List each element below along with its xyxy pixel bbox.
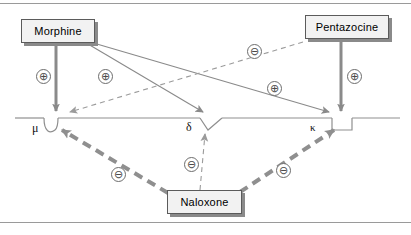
sign-morphine-mu-plus: ⊕: [36, 69, 51, 84]
drug-label-pentazocine: Pentazocine: [316, 22, 379, 33]
arrow-naloxone-to-delta: [200, 134, 205, 190]
drug-box-morphine[interactable]: Morphine: [21, 19, 95, 43]
drug-box-naloxone[interactable]: Naloxone: [167, 190, 242, 214]
receptor-label-mu: μ: [32, 121, 38, 136]
sign-pentazocine-mu-minus: ⊖: [247, 44, 262, 59]
sign-naloxone-kappa-minus: ⊖: [276, 163, 291, 178]
sign-pentazocine-kappa-plus: ⊕: [347, 69, 362, 84]
sign-naloxone-mu-minus: ⊖: [111, 167, 126, 182]
drug-label-morphine: Morphine: [34, 26, 81, 37]
drug-box-pentazocine[interactable]: Pentazocine: [305, 15, 389, 39]
arrow-naloxone-to-mu: [62, 130, 168, 193]
arrow-morphine-to-kappa: [90, 42, 329, 112]
delta-receptor-notch: [200, 118, 222, 130]
sign-morphine-kappa-plus: ⊕: [267, 81, 282, 96]
kappa-receptor-notch: [332, 118, 352, 130]
mu-receptor-notch: [44, 118, 58, 132]
receptor-label-delta: δ: [186, 120, 192, 135]
opioid-receptor-diagram: Morphine Pentazocine Naloxone μ δ κ ⊕ ⊕ …: [0, 0, 411, 235]
arrow-naloxone-to-kappa: [240, 130, 334, 192]
drug-label-naloxone: Naloxone: [180, 197, 228, 208]
sign-morphine-delta-plus: ⊕: [98, 69, 113, 84]
receptor-label-kappa: κ: [310, 121, 316, 133]
sign-naloxone-delta-minus: ⊖: [184, 157, 199, 172]
